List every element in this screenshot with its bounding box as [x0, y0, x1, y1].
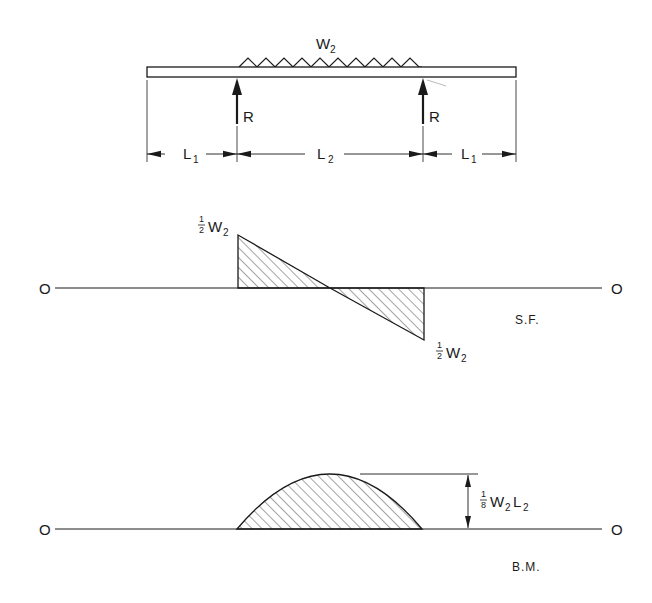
svg-text:2: 2	[199, 225, 204, 235]
sf-bottom-label: 1 2 W 2	[436, 340, 467, 364]
svg-text:2: 2	[505, 502, 511, 513]
svg-text:W: W	[208, 218, 223, 235]
arrow-down-icon	[465, 516, 471, 528]
svg-text:2: 2	[330, 44, 336, 55]
svg-text:W: W	[446, 344, 461, 361]
svg-text:R: R	[243, 108, 254, 125]
distributed-load-zigzag	[239, 58, 422, 67]
svg-text:1: 1	[437, 340, 442, 350]
reaction-left: R	[232, 78, 254, 125]
svg-text:1: 1	[471, 154, 477, 165]
origin-left-label: O	[39, 521, 51, 538]
sf-caption: S.F.	[515, 313, 540, 327]
bm-caption: B.M.	[512, 560, 541, 574]
svg-text:2: 2	[223, 227, 229, 238]
dimension-l2: L 2	[237, 145, 423, 165]
svg-text:1: 1	[481, 489, 486, 499]
svg-text:L: L	[183, 145, 191, 162]
svg-text:R: R	[429, 108, 440, 125]
svg-text:1: 1	[199, 214, 204, 224]
origin-left-label: O	[39, 280, 51, 297]
svg-text:1: 1	[193, 154, 199, 165]
bending-moment-diagram: O O 1 8 W 2 L 2 B.M.	[39, 474, 623, 574]
origin-right-label: O	[611, 280, 623, 297]
svg-text:2: 2	[523, 502, 529, 513]
svg-text:L: L	[461, 145, 469, 162]
sf-top-label: 1 2 W 2	[198, 214, 229, 238]
bm-peak-label: 1 8 W 2 L 2	[480, 489, 529, 513]
arrow-up-icon	[465, 475, 471, 487]
arrow-up-icon	[418, 78, 428, 95]
sf-positive-region	[238, 235, 330, 288]
svg-text:W: W	[316, 35, 331, 52]
arrow-up-icon	[232, 78, 242, 95]
svg-text:2: 2	[461, 353, 467, 364]
beam-section: W 2 R R L 1	[147, 35, 516, 165]
sf-negative-region	[330, 288, 424, 340]
bm-parabola-region	[237, 474, 422, 529]
origin-right-label: O	[611, 521, 623, 538]
svg-text:L: L	[317, 145, 325, 162]
beam-bar	[147, 67, 516, 77]
svg-text:W: W	[490, 493, 505, 510]
dimension-l1-left: L 1	[147, 145, 237, 165]
svg-text:8: 8	[481, 500, 486, 510]
dimension-l1-right: L 1	[423, 145, 516, 165]
beam-diagram: W 2 R R L 1	[0, 0, 652, 603]
svg-text:2: 2	[437, 351, 442, 361]
load-label: W 2	[316, 35, 336, 55]
svg-text:2: 2	[328, 154, 334, 165]
reaction-right: R	[418, 78, 440, 125]
shear-force-diagram: O O 1 2 W 2 1 2 W 2 S.F.	[39, 214, 623, 364]
svg-text:L: L	[513, 493, 521, 510]
